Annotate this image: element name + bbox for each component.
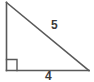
right-triangle-figure: 5 4	[0, 0, 94, 82]
right-angle-marker-icon	[7, 60, 18, 71]
hypotenuse-length-label: 5	[51, 19, 58, 31]
triangle-side-hypotenuse	[7, 3, 90, 71]
base-length-label: 4	[45, 70, 52, 82]
